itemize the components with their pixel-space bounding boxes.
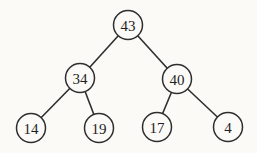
tree-node-43: 43 bbox=[114, 11, 143, 40]
tree-node-19: 19 bbox=[85, 114, 114, 143]
binary-tree-diagram: 4334401419174 bbox=[0, 0, 257, 153]
tree-node-value: 17 bbox=[150, 120, 166, 136]
tree-node-34: 34 bbox=[66, 64, 95, 93]
tree-node-value: 43 bbox=[121, 18, 136, 34]
tree-node-40: 40 bbox=[163, 65, 192, 94]
tree-node-value: 40 bbox=[170, 72, 185, 88]
tree-node-value: 4 bbox=[224, 120, 232, 136]
binary-tree-svg: 4334401419174 bbox=[0, 0, 257, 153]
tree-node-value: 14 bbox=[24, 121, 40, 137]
tree-node-4: 4 bbox=[214, 113, 243, 142]
tree-node-value: 19 bbox=[92, 121, 107, 137]
tree-node-14: 14 bbox=[17, 114, 46, 143]
tree-node-17: 17 bbox=[143, 113, 172, 142]
tree-node-value: 34 bbox=[73, 71, 89, 87]
